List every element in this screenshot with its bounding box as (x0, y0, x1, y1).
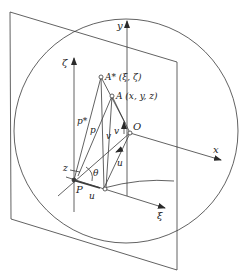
label-theta: θ (93, 168, 99, 178)
point-a-star (99, 75, 103, 79)
projection-plane (10, 12, 177, 270)
great-circle-arc (104, 180, 174, 188)
label-p: p (90, 125, 96, 135)
label-z: z (62, 163, 68, 173)
sphere-outline (14, 19, 238, 243)
label-a: A (x, y, z) (115, 91, 158, 101)
label-a-star: A* (ξ, ζ) (104, 72, 142, 82)
line-p-a-star (74, 77, 101, 180)
label-o: O (133, 121, 141, 132)
label-v-right: v (114, 126, 119, 136)
point-o (128, 131, 132, 135)
point-p (72, 178, 76, 182)
label-y: y (116, 20, 123, 31)
label-u-right: u (117, 158, 123, 168)
x-axis (130, 133, 221, 160)
projection-diagram: y x ζ ξ O A* (ξ, ζ) A (x, y, z) p* p v v… (0, 0, 245, 278)
label-zeta: ζ (62, 57, 68, 68)
point-foot (103, 187, 107, 191)
line-a-foot (106, 96, 112, 188)
label-x: x (213, 144, 219, 155)
label-p-star: p* (77, 116, 88, 126)
label-xi: ξ (157, 210, 163, 221)
label-v-left: v (106, 131, 111, 141)
z-tick (70, 170, 80, 172)
line-a-star-foot (101, 77, 104, 188)
point-a (110, 94, 114, 98)
label-P: P (75, 184, 83, 195)
theta-arc (86, 167, 92, 181)
label-u-bottom: u (89, 191, 95, 201)
u-vector (116, 150, 120, 152)
